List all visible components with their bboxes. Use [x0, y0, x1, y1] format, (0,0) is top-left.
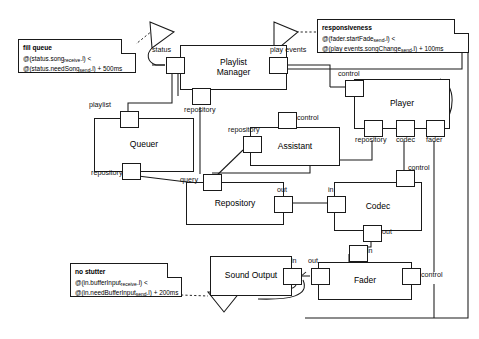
port-label-fader-out: out: [308, 257, 318, 264]
port-codec-out[interactable]: [363, 225, 382, 242]
port-label-assistant-control: control: [297, 114, 319, 121]
port-sound-output-in[interactable]: [283, 268, 302, 285]
component-label: Sound Output: [225, 271, 277, 281]
port-label-fader-control: control: [421, 271, 443, 278]
port-label-player-repository: repository: [355, 136, 387, 143]
note-fold-corner: [121, 39, 136, 54]
port-assistant-control[interactable]: [278, 112, 297, 129]
port-fader-control[interactable]: [402, 268, 421, 285]
note-line-1: @(fader.startFadesend.l) <: [322, 34, 464, 44]
port-label-fader-in: in: [367, 247, 373, 254]
port-queuer-repository[interactable]: [122, 163, 141, 180]
note-fold-corner: [167, 263, 182, 278]
port-label-codec-out: out: [382, 228, 392, 235]
port-label-repository-out: out: [277, 186, 287, 193]
port-label-codec-in: in: [328, 186, 334, 193]
port-label-assistant-repository: repository: [228, 126, 260, 133]
port-fader-in[interactable]: [349, 245, 368, 262]
port-playlist-manager-repository[interactable]: [192, 88, 211, 105]
note-line-1: @(in.bufferInputreceive.l) <: [75, 278, 177, 288]
note-responsiveness[interactable]: responsiveness @(fader.startFadesend.l) …: [317, 19, 469, 53]
component-sound-output[interactable]: Sound Output: [210, 256, 292, 296]
note-fill-queue[interactable]: fill queue @(status.songreceive.l) < @(s…: [18, 39, 136, 73]
component-codec[interactable]: Codec: [334, 182, 422, 231]
component-diagram: Playlist Manager Player Queuer Assistant…: [0, 0, 479, 339]
port-playlist-manager-play-events[interactable]: [269, 57, 288, 74]
port-label-pm-repository: repository: [184, 106, 216, 113]
port-label-queuer-playlist: playlist: [89, 101, 111, 108]
port-label-play-events: play events: [270, 46, 306, 53]
port-label-player-codec: codec: [396, 136, 415, 143]
component-label: Queuer: [130, 140, 158, 150]
port-label-queuer-repository: repository: [91, 169, 123, 176]
port-queuer-playlist[interactable]: [120, 111, 139, 128]
port-label-codec-control: control: [408, 164, 430, 171]
port-player-control[interactable]: [345, 80, 364, 97]
port-assistant-repository[interactable]: [243, 136, 262, 153]
component-fader[interactable]: Fader: [318, 262, 412, 300]
note-title: responsiveness: [322, 23, 464, 33]
port-playlist-manager-status[interactable]: [166, 57, 185, 74]
component-label: Codec: [366, 202, 391, 212]
note-line-1: @(status.songreceive.l) <: [23, 54, 131, 64]
component-label: Playlist Manager: [217, 58, 251, 78]
port-fader-out[interactable]: [311, 268, 330, 285]
port-label-repository-query: query: [180, 176, 198, 183]
component-label: Fader: [354, 276, 376, 286]
port-codec-in[interactable]: [327, 196, 346, 213]
component-repository[interactable]: Repository: [186, 182, 284, 225]
component-label: Repository: [215, 199, 256, 209]
component-label: Player: [390, 99, 414, 109]
note-title: fill queue: [23, 43, 131, 53]
port-label-player-control: control: [338, 70, 360, 77]
note-line-2: @(play events.songChangesend.l) + 100ms: [322, 44, 464, 54]
port-label-player-fader: fader: [426, 136, 442, 143]
port-label-sound-in: in: [291, 257, 297, 264]
note-no-stutter[interactable]: no stutter @(in.bufferInputreceive.l) < …: [70, 263, 182, 297]
port-repository-out[interactable]: [274, 196, 293, 213]
component-queuer[interactable]: Queuer: [94, 118, 194, 172]
port-repository-query[interactable]: [203, 174, 222, 191]
note-fold-corner: [454, 19, 469, 34]
port-label-status: status: [152, 46, 171, 53]
component-label: Assistant: [278, 142, 313, 152]
note-line-2: @(in.needBufferInputsend.l) + 200ms: [75, 288, 177, 298]
note-line-2: @(status.needSongsend.l) + 500ms: [23, 64, 131, 74]
note-title: no stutter: [75, 267, 177, 277]
component-assistant[interactable]: Assistant: [250, 127, 340, 166]
port-codec-control[interactable]: [396, 170, 415, 187]
